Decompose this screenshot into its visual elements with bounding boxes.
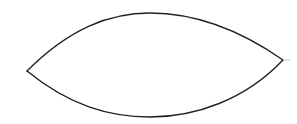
lens-upper-curve xyxy=(27,13,283,71)
lens-lower-curve xyxy=(27,60,283,117)
lens-diagram xyxy=(0,0,297,124)
